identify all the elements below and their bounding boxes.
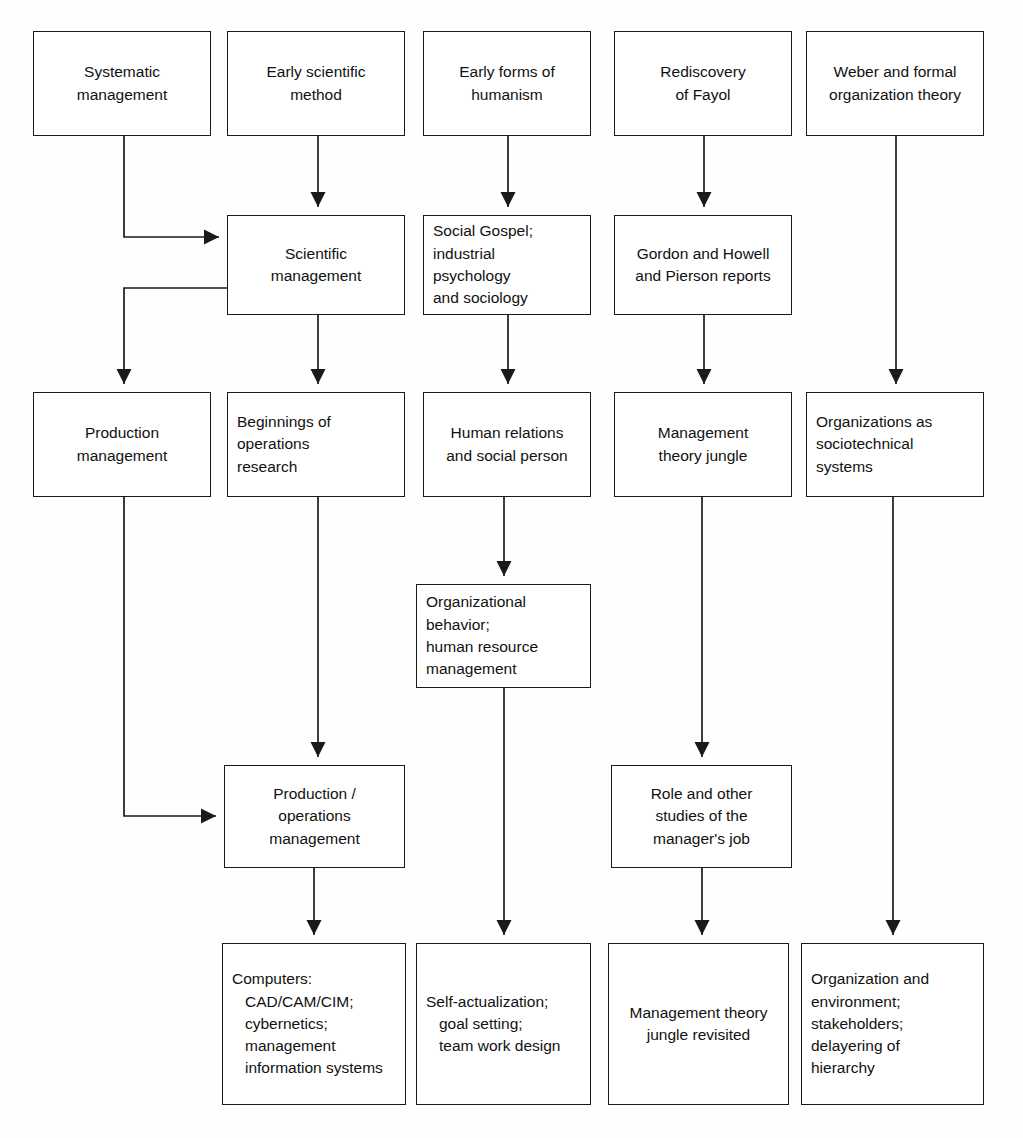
connector-beginnings-to-prod-operations <box>311 497 326 757</box>
arrowhead <box>886 920 901 935</box>
node-computers_cad_cam[interactable]: Computers:CAD/CAM/CIM;cybernetics;manage… <box>222 943 406 1105</box>
arrowhead <box>311 742 326 757</box>
node-label-computers_cad_cam: Computers:CAD/CAM/CIM;cybernetics;manage… <box>223 968 405 1080</box>
arrowhead <box>697 369 712 384</box>
node-gordon_howell_pierson[interactable]: Gordon and Howell and Pierson reports <box>614 215 792 315</box>
node-label-social_gospel: Social Gospel; industrial psychology and… <box>424 220 590 309</box>
arrowhead <box>695 742 710 757</box>
node-weber_formal_org[interactable]: Weber and formal organization theory <box>806 31 984 136</box>
node-label-early_forms_humanism: Early forms of humanism <box>424 61 590 106</box>
connector-prod-operations-to-computers <box>307 868 322 935</box>
node-label-management_theory_jungle: Management theory jungle <box>615 422 791 467</box>
node-role_studies_manager[interactable]: Role and other studies of the manager's … <box>611 765 792 868</box>
arrowhead <box>117 369 132 384</box>
node-label-weber_formal_org: Weber and formal organization theory <box>807 61 983 106</box>
node-label-org_and_environment: Organization and environment; stakeholde… <box>802 968 983 1080</box>
arrowhead <box>695 920 710 935</box>
connector-production-to-prod-operations <box>124 497 216 824</box>
node-label-human_relations: Human relations and social person <box>424 422 590 467</box>
arrowhead <box>307 920 322 935</box>
node-organizational_behavior[interactable]: Organizational behavior; human resource … <box>416 584 591 688</box>
connector-weber-to-sociotechnical <box>889 136 904 384</box>
node-label-production_operations: Production / operations management <box>225 783 404 850</box>
arrowhead <box>501 192 516 207</box>
node-beginnings_op_research[interactable]: Beginnings of operations research <box>227 392 405 497</box>
connector-sociotechnical-to-org-env <box>886 497 901 935</box>
node-label-early_scientific_method: Early scientific method <box>228 61 404 106</box>
node-label-systematic_management: Systematic management <box>34 61 210 106</box>
connector-org-behavior-to-self-actual <box>497 688 512 935</box>
connector-scientific-to-beginnings-or <box>311 315 326 384</box>
arrowhead <box>497 561 512 576</box>
arrowhead <box>697 192 712 207</box>
connector-fayol-to-gordon-howell <box>697 136 712 207</box>
node-label-self_actualization: Self-actualization;goal setting;team wor… <box>417 991 590 1058</box>
arrowhead <box>889 369 904 384</box>
node-label-role_studies_manager: Role and other studies of the manager's … <box>612 783 791 850</box>
node-label-mgmt_theory_revisited: Management theory jungle revisited <box>609 1002 788 1047</box>
node-rediscovery_of_fayol[interactable]: Rediscovery of Fayol <box>614 31 792 136</box>
node-management_theory_jungle[interactable]: Management theory jungle <box>614 392 792 497</box>
connector-systematic-to-scientific <box>124 136 219 245</box>
connector-social-gospel-to-human-rel <box>501 315 516 384</box>
node-early_scientific_method[interactable]: Early scientific method <box>227 31 405 136</box>
node-org_and_environment[interactable]: Organization and environment; stakeholde… <box>801 943 984 1105</box>
node-systematic_management[interactable]: Systematic management <box>33 31 211 136</box>
node-label-organizational_behavior: Organizational behavior; human resource … <box>417 591 590 680</box>
connector-early-method-to-scientific <box>311 136 326 207</box>
connector-human-rel-to-org-behavior <box>497 497 512 576</box>
connector-role-studies-to-jungle-revisit <box>695 868 710 935</box>
node-label-rediscovery_of_fayol: Rediscovery of Fayol <box>615 61 791 106</box>
node-social_gospel[interactable]: Social Gospel; industrial psychology and… <box>423 215 591 315</box>
node-label-scientific_management: Scientific management <box>228 243 404 288</box>
connector-scientific-to-production <box>117 288 228 384</box>
node-scientific_management[interactable]: Scientific management <box>227 215 405 315</box>
arrowhead <box>201 809 216 824</box>
node-label-gordon_howell_pierson: Gordon and Howell and Pierson reports <box>615 243 791 288</box>
connector-humanism-to-social-gospel <box>501 136 516 207</box>
node-orgs_sociotechnical[interactable]: Organizations as sociotechnical systems <box>806 392 984 497</box>
node-human_relations[interactable]: Human relations and social person <box>423 392 591 497</box>
arrowhead <box>311 192 326 207</box>
node-production_management[interactable]: Production management <box>33 392 211 497</box>
arrowhead <box>204 230 219 245</box>
arrowhead <box>497 920 512 935</box>
connector-theory-jungle-to-role-studies <box>695 497 710 757</box>
connector-gordon-to-theory-jungle <box>697 315 712 384</box>
arrowhead <box>311 369 326 384</box>
node-label-orgs_sociotechnical: Organizations as sociotechnical systems <box>807 411 983 478</box>
node-mgmt_theory_revisited[interactable]: Management theory jungle revisited <box>608 943 789 1105</box>
node-self_actualization[interactable]: Self-actualization;goal setting;team wor… <box>416 943 591 1105</box>
node-production_operations[interactable]: Production / operations management <box>224 765 405 868</box>
arrowhead <box>501 369 516 384</box>
flowchart-canvas: Systematic managementEarly scientific me… <box>0 0 1023 1138</box>
node-label-production_management: Production management <box>34 422 210 467</box>
node-early_forms_humanism[interactable]: Early forms of humanism <box>423 31 591 136</box>
node-label-beginnings_op_research: Beginnings of operations research <box>228 411 404 478</box>
